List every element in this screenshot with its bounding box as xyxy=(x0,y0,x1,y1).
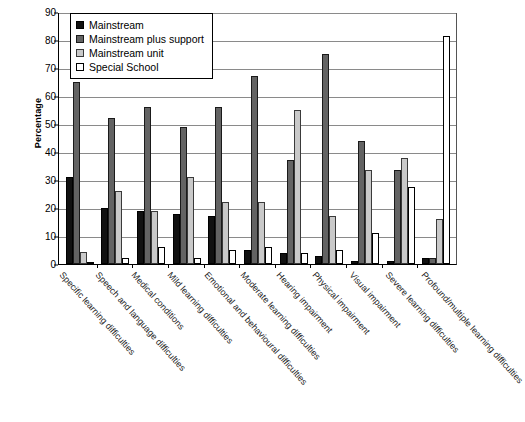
bar xyxy=(180,127,187,264)
bar-group xyxy=(276,13,312,264)
legend-item[interactable]: Mainstream xyxy=(76,18,204,32)
bar xyxy=(101,208,108,264)
y-tick-label: 90 xyxy=(26,8,56,18)
bar-group xyxy=(240,13,276,264)
y-tick-label: 50 xyxy=(26,120,56,130)
bar xyxy=(122,258,129,264)
bar xyxy=(73,82,80,264)
legend-item[interactable]: Special School xyxy=(76,60,204,74)
legend-label: Mainstream unit xyxy=(89,47,164,59)
bar xyxy=(151,211,158,264)
bar xyxy=(115,191,122,264)
bar xyxy=(80,252,87,264)
bar xyxy=(251,76,258,264)
x-axis-label: Mild learning difficulties xyxy=(166,270,236,346)
bar xyxy=(394,170,401,264)
bar xyxy=(158,247,165,264)
bar xyxy=(66,177,73,264)
legend-swatch-icon xyxy=(76,63,84,71)
legend-label: Special School xyxy=(89,61,158,73)
bar xyxy=(365,170,372,264)
bar xyxy=(329,216,336,264)
y-tick-label: 20 xyxy=(26,204,56,214)
y-axis-ticks: 0102030405060708090 xyxy=(8,0,56,422)
y-tick-label: 40 xyxy=(26,148,56,158)
y-tick-label: 0 xyxy=(26,260,56,270)
y-tick-label: 10 xyxy=(26,232,56,242)
bar xyxy=(422,258,429,264)
bar xyxy=(294,110,301,264)
bar xyxy=(173,214,180,264)
y-tick-label: 70 xyxy=(26,64,56,74)
bar xyxy=(336,250,343,264)
legend-swatch-icon xyxy=(76,49,84,57)
bar xyxy=(372,233,379,264)
bar xyxy=(194,258,201,264)
legend-label: Mainstream plus support xyxy=(89,33,204,45)
bar xyxy=(322,54,329,264)
legend-item[interactable]: Mainstream unit xyxy=(76,46,204,60)
bar xyxy=(408,187,415,264)
bar xyxy=(351,261,358,264)
bar xyxy=(244,250,251,264)
bar xyxy=(280,253,287,264)
bar xyxy=(229,250,236,264)
bar-group xyxy=(418,13,454,264)
y-tick-label: 30 xyxy=(26,176,56,186)
x-axis-labels: Specific learning difficultiesSpeech and… xyxy=(58,268,457,420)
legend-swatch-icon xyxy=(76,21,84,29)
bar xyxy=(287,160,294,264)
bar xyxy=(358,141,365,264)
bar xyxy=(215,107,222,264)
bar xyxy=(144,107,151,264)
bar xyxy=(429,258,436,264)
bar xyxy=(108,118,115,264)
y-tick-label: 80 xyxy=(26,36,56,46)
bar xyxy=(315,256,322,264)
bar xyxy=(436,219,443,264)
bar xyxy=(87,262,94,264)
bar xyxy=(265,247,272,264)
bar-group xyxy=(311,13,347,264)
bar xyxy=(137,211,144,264)
bar xyxy=(443,36,450,264)
bar xyxy=(301,253,308,264)
bar xyxy=(208,216,215,264)
bar-group xyxy=(347,13,383,264)
bar xyxy=(401,158,408,264)
legend-item[interactable]: Mainstream plus support xyxy=(76,32,204,46)
bar xyxy=(187,177,194,264)
legend-label: Mainstream xyxy=(89,19,144,31)
bar xyxy=(387,261,394,264)
x-axis-label: Severe learning difficulties xyxy=(384,270,462,355)
y-tick-label: 60 xyxy=(26,92,56,102)
bar xyxy=(258,202,265,264)
bar xyxy=(222,202,229,264)
chart-legend: MainstreamMainstream plus supportMainstr… xyxy=(70,13,213,79)
x-axis-label: Specific learning difficulties xyxy=(57,270,137,357)
bar-group xyxy=(383,13,419,264)
legend-swatch-icon xyxy=(76,35,84,43)
